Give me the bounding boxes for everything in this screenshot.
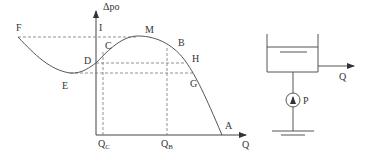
label-d: D: [84, 55, 91, 66]
tank: [267, 34, 318, 72]
point-labels: Δpo F I M C B D H E G A Q: [16, 1, 250, 150]
tick-qc: QC: [98, 138, 110, 151]
label-b: B: [178, 37, 185, 48]
label-a: A: [225, 120, 233, 131]
tank-system: Q P: [267, 34, 354, 135]
label-g: G: [190, 78, 197, 89]
label-h: H: [192, 53, 199, 64]
label-c: C: [105, 40, 112, 51]
diagram-canvas: Δpo F I M C B D H E G A Q QC QB Q P: [0, 0, 369, 158]
x-axis-label: Q: [242, 139, 250, 150]
pump-label: P: [303, 95, 309, 106]
label-e: E: [62, 80, 68, 91]
outlet-label: Q: [339, 71, 347, 82]
tick-qb: QB: [161, 138, 173, 151]
guide-lines: [18, 37, 193, 135]
label-f: F: [16, 22, 22, 33]
label-m: M: [145, 24, 154, 35]
label-i: I: [99, 22, 102, 33]
tick-labels: QC QB: [98, 138, 173, 151]
curve-d-m-a: [96, 36, 222, 135]
y-axis-label: Δpo: [103, 1, 119, 12]
